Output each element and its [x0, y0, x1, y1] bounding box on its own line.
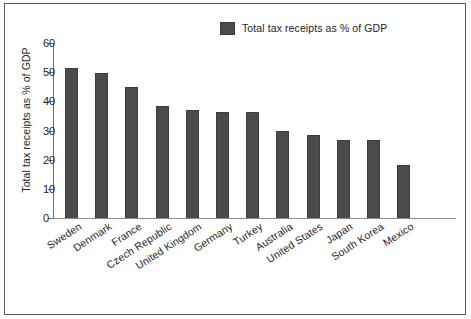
y-axis-tick-label: 0 — [43, 212, 48, 224]
y-axis-tick-label: 40 — [43, 95, 48, 107]
bar — [216, 112, 229, 218]
plot-area: 0102030405060 — [53, 43, 458, 218]
bar — [125, 87, 138, 218]
bar-chart-figure: Total tax receipts as % of GDP Total tax… — [0, 0, 471, 319]
y-axis-tick-label: 20 — [43, 154, 48, 166]
legend-swatch-icon — [220, 22, 235, 35]
y-axis-title: Total tax receipts as % of GDP — [20, 25, 36, 215]
x-axis-category-labels: SwedenDenmarkFranceCzech RepublicUnited … — [53, 220, 458, 315]
bar — [246, 112, 259, 218]
y-axis-tick-label: 10 — [43, 183, 48, 195]
bar — [186, 110, 199, 219]
chart-legend: Total tax receipts as % of GDP — [220, 20, 387, 36]
bar — [397, 165, 410, 218]
bar — [307, 135, 320, 218]
y-axis-tick-label: 50 — [43, 66, 48, 78]
y-axis-tick-label: 30 — [43, 125, 48, 137]
bar — [95, 73, 108, 218]
bar — [276, 131, 289, 218]
bar — [156, 106, 169, 218]
bar-series — [53, 43, 458, 218]
x-axis-line — [53, 218, 456, 219]
legend-label: Total tax receipts as % of GDP — [242, 22, 387, 34]
bar — [65, 68, 78, 218]
x-axis-label: Mexico — [380, 220, 415, 249]
bar — [337, 140, 350, 218]
y-axis-tick-label: 60 — [43, 37, 48, 49]
bar — [367, 140, 380, 218]
